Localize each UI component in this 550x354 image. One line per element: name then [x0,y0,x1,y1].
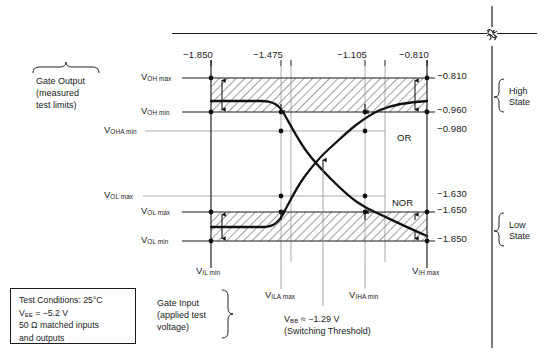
label-vih-max: VIH max [412,266,439,277]
test-conditions-line4: and outputs [19,332,128,345]
right-value-2: −0.980 [437,124,467,135]
state-high-line2: State [509,97,530,108]
label-vol-min-sub: OL min [147,238,168,245]
annotation-vbb-threshold: VBB ≈ −1.29 V (Switching Threshold) [284,313,371,338]
label-vil-min: VIL min [196,266,220,277]
top-tick-label-0: −1.850 [183,50,213,61]
gate-output-line2: (measured [36,88,85,100]
label-vila-max: VILA max [265,290,295,301]
figure-root: −1.850 −1.475 −1.105 −0.810 −0.810 −0.96… [0,0,550,354]
label-viha-min-sub: IHA min [355,293,378,300]
right-value-5: −1.850 [437,234,467,245]
region-label-nor: NOR [392,198,413,209]
right-vertical-axis [488,6,496,348]
region-label-or: OR [397,133,411,144]
annotation-gate-input: Gate Input (applied test voltage) [157,298,206,334]
gate-output-line3: test limits) [36,100,85,112]
top-axis [172,29,537,37]
gate-output-brace [33,62,99,73]
gate-output-line1: Gate Output [36,76,85,88]
right-value-4: −1.650 [437,205,467,216]
gate-input-line2: (applied test [157,310,206,322]
high-state-limit-band [211,78,427,112]
label-voha-min: VOHA min [104,125,137,136]
top-tick-label-1: −1.475 [253,50,283,61]
label-vola-max: VOL max [104,190,133,201]
label-vol-max-sub: OL max [147,209,170,216]
label-vol-min: VOL min [141,235,168,246]
top-tick-label-2: −1.105 [337,50,367,61]
top-tick-label-3: −0.810 [399,50,429,61]
gate-input-line1: Gate Input [157,298,206,310]
state-low-line2: State [509,231,530,242]
top-tick-marks [211,60,427,66]
label-viha-min: VIHA min [349,290,378,301]
state-label-low: Low State [509,220,530,243]
label-voh-min: VOH min [141,106,170,117]
state-high-line1: High [509,86,530,97]
vbb-value-line: VBB ≈ −1.29 V [284,313,371,325]
right-value-0: −0.810 [437,71,467,82]
label-voha-min-sub: OHA min [110,128,136,135]
test-conditions-box: Test Conditions: 25°C VEE = −5.2 V 50 Ω … [10,288,136,344]
test-conditions-line1: Test Conditions: 25°C [19,294,128,307]
vbb-sub: BB [290,317,298,324]
right-value-1: −0.960 [437,105,467,116]
test-conditions-line2: VEE = −5.2 V [19,307,128,320]
vbb-value: ≈ −1.29 V [301,314,340,324]
high-state-brace [494,79,504,112]
label-voh-max: VOH max [141,72,171,83]
vee-value: = −5.2 V [33,308,68,318]
right-value-3: −1.630 [437,189,467,200]
gate-input-line3: voltage) [157,322,206,334]
label-vila-max-sub: ILA max [271,293,295,300]
vee-sub: EE [25,312,33,318]
vbb-note: (Switching Threshold) [284,325,371,337]
low-state-brace [494,213,504,246]
state-label-high: High State [509,86,530,109]
label-vih-max-sub: IH max [418,269,439,276]
state-low-line1: Low [509,220,530,231]
label-vol-max: VOL max [141,206,170,217]
label-voh-max-sub: OH max [147,75,171,82]
label-vil-min-sub: IL min [202,269,220,276]
gate-input-brace [222,290,233,338]
label-vola-max-sub: OL max [110,193,133,200]
test-conditions-line3: 50 Ω matched inputs [19,319,128,332]
label-voh-min-sub: OH min [147,109,169,116]
annotation-gate-output: Gate Output (measured test limits) [36,76,85,112]
